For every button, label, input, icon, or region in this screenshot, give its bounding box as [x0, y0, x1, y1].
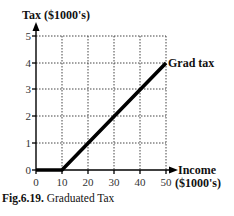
- x-axis-arrow-icon: [169, 167, 178, 174]
- figure-number: Fig.6.19.: [2, 192, 44, 204]
- y-tick-1: 1: [26, 137, 32, 149]
- y-tick-5: 5: [26, 30, 32, 42]
- y-axis-arrow-icon: [33, 22, 40, 31]
- x-axis-label-line2: ($1000's): [175, 176, 221, 190]
- x-axis-label-line1: Income: [178, 163, 217, 177]
- x-tick-30: 30: [109, 176, 121, 188]
- tick-marks: [32, 36, 166, 174]
- y-tick-4: 4: [26, 57, 32, 69]
- figure-caption: Fig.6.19. Graduated Tax: [2, 192, 114, 204]
- x-tick-50: 50: [161, 176, 173, 188]
- x-tick-10: 10: [57, 176, 69, 188]
- y-tick-0: 0: [26, 164, 32, 176]
- y-tick-3: 3: [26, 83, 32, 95]
- y-axis-label: Tax ($1000's): [22, 8, 90, 22]
- x-tick-0: 0: [33, 176, 39, 188]
- graduated-tax-chart: 0 1 2 3 4 5 0 10 20 30 40 50 Tax ($1000'…: [0, 0, 234, 216]
- grid: [36, 36, 166, 170]
- x-tick-20: 20: [83, 176, 95, 188]
- x-tick-40: 40: [135, 176, 147, 188]
- figure-caption-text: Graduated Tax: [44, 192, 115, 204]
- y-tick-2: 2: [26, 110, 32, 122]
- axes: [36, 28, 172, 170]
- series-label-grad-tax: Grad tax: [168, 56, 214, 70]
